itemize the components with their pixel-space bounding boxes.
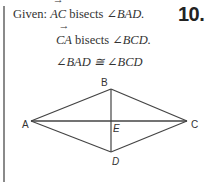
label-e: E bbox=[113, 123, 120, 134]
label-d: D bbox=[112, 156, 119, 167]
label-c: C bbox=[191, 119, 198, 130]
segment-da bbox=[31, 121, 111, 152]
label-a: A bbox=[22, 119, 29, 130]
segment-bc bbox=[111, 89, 187, 121]
rhombus-figure: A B C D E bbox=[0, 0, 217, 195]
segment-ab bbox=[31, 89, 111, 121]
segment-cd bbox=[111, 121, 187, 152]
label-b: B bbox=[101, 77, 108, 88]
